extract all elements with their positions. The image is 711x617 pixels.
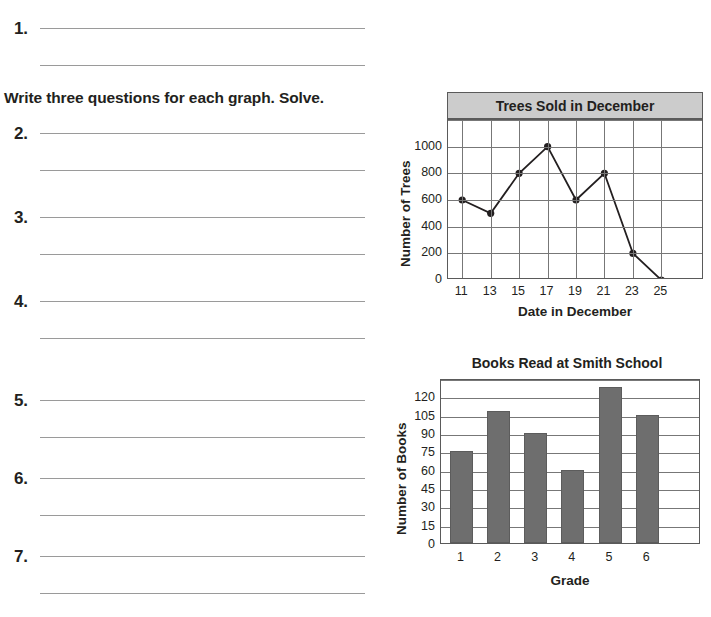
gridline-vertical [548,120,549,278]
bar-chart-y-tick: 45 [392,482,435,496]
bar-chart-y-tick: 0 [392,537,435,551]
bar-chart-y-tick: 60 [392,464,435,478]
bar-chart-x-tick: 6 [643,550,650,564]
bar [599,387,622,543]
gridline-vertical [519,120,520,278]
bar-chart-x-tick: 5 [606,550,613,564]
answer-line[interactable] [40,556,365,557]
answer-line[interactable] [40,254,365,255]
line-chart-y-tick: 0 [392,272,442,286]
line-chart-x-tick: 17 [540,284,554,298]
line-chart-plot-area [447,119,703,279]
bar-chart-y-tick: 75 [392,445,435,459]
gridline-vertical [604,120,605,278]
bar [524,433,547,543]
gridline-horizontal [448,227,702,228]
line-chart-y-tick: 800 [392,165,442,179]
gridline-vertical [462,120,463,278]
bar [487,411,510,543]
answer-line[interactable] [40,28,365,29]
line-chart-x-axis-label: Date in December [447,304,703,319]
bar [561,470,584,543]
gridline-horizontal [448,147,702,148]
question-number: 6. [14,469,28,489]
gridline-vertical [661,120,662,278]
bar-chart-y-tick: 105 [392,409,435,423]
line-chart-x-tick: 15 [511,284,525,298]
bar-chart-x-tick: 3 [531,550,538,564]
line-chart-title: Trees Sold in December [447,92,703,119]
gridline-horizontal [448,200,702,201]
bar-chart-y-tick: 120 [392,390,435,404]
worksheet-page: 1. Write three questions for each graph.… [0,0,711,617]
answer-line[interactable] [40,217,365,218]
gridline-horizontal [448,173,702,174]
instruction-text: Write three questions for each graph. So… [4,89,324,107]
bar-chart-y-tick: 15 [392,519,435,533]
gridline-vertical [633,120,634,278]
gridline-horizontal [441,380,699,381]
bar-chart-books-read: Books Read at Smith School Number of Boo… [392,355,711,607]
bar-chart-y-tick: 30 [392,500,435,514]
bar-chart-x-axis-label: Grade [440,573,700,588]
line-chart-x-tick: 13 [483,284,497,298]
line-chart-y-tick: 1000 [392,139,442,153]
bar-chart-y-tick: 90 [392,427,435,441]
answer-line[interactable] [40,301,365,302]
line-chart-x-tick: 25 [653,284,667,298]
bar-chart-plot-area [440,379,700,544]
answer-line[interactable] [40,338,365,339]
bar-chart-x-tick: 1 [457,550,464,564]
line-chart-x-tick: 11 [455,284,468,298]
line-chart-y-tick: 400 [392,219,442,233]
answer-line[interactable] [40,170,365,171]
gridline-vertical [576,120,577,278]
question-number: 3. [14,208,28,228]
gridline-horizontal [441,398,699,399]
gridline-vertical [491,120,492,278]
gridline-horizontal [441,435,699,436]
line-chart-y-tick: 600 [392,192,442,206]
answer-line[interactable] [40,400,365,401]
gridline-horizontal [441,453,699,454]
bar-chart-x-tick: 2 [494,550,501,564]
line-chart-x-tick: 21 [596,284,610,298]
gridline-horizontal [448,253,702,254]
question-number: 2. [14,124,28,144]
line-chart-x-tick: 23 [625,284,639,298]
answer-line[interactable] [40,133,365,134]
gridline-horizontal [448,120,702,121]
bar-chart-x-tick: 4 [568,550,575,564]
question-number: 1. [14,19,28,39]
line-chart-trees-sold: Trees Sold in December Number of Trees D… [392,92,711,322]
question-number: 5. [14,391,28,411]
line-chart-x-tick: 19 [568,284,582,298]
gridline-horizontal [441,417,699,418]
answer-line[interactable] [40,478,365,479]
question-number: 4. [14,292,28,312]
bar [450,451,473,543]
answer-line[interactable] [40,65,365,66]
question-number: 7. [14,547,28,567]
bar-chart-title: Books Read at Smith School [432,355,702,371]
answer-line[interactable] [40,593,365,594]
answer-line[interactable] [40,515,365,516]
answer-line[interactable] [40,437,365,438]
line-chart-y-tick: 200 [392,245,442,259]
page-top-cutoff-text [6,2,696,10]
bar [636,415,659,543]
